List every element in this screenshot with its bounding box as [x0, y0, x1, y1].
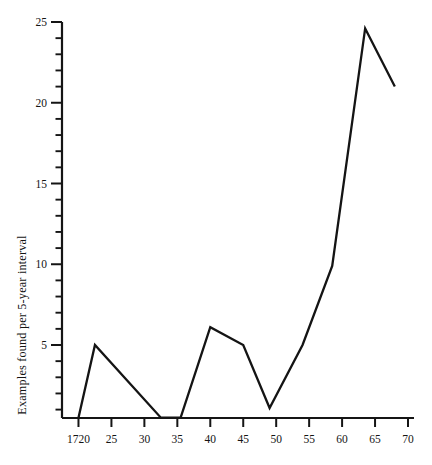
- y-tick-label: 20: [36, 97, 48, 109]
- x-tick-label: 35: [172, 433, 184, 445]
- y-axis-title: Examples found per 5-year interval: [15, 235, 29, 415]
- x-tick-label: 65: [369, 433, 381, 445]
- x-tick-label: 50: [270, 433, 282, 445]
- x-tick-label: 1720: [67, 433, 90, 445]
- chart-background: [0, 0, 432, 465]
- x-tick-label: 55: [303, 433, 315, 445]
- x-tick-label: 70: [402, 433, 414, 445]
- y-tick-label: 15: [36, 178, 48, 190]
- x-tick-label: 45: [237, 433, 249, 445]
- x-tick-label: 40: [205, 433, 217, 445]
- line-chart: 510152025 172025303540455055606570 Examp…: [0, 0, 432, 465]
- y-axis-title-text: Examples found per 5-year interval: [15, 235, 29, 415]
- y-tick-label: 5: [41, 339, 47, 351]
- y-tick-label: 25: [36, 16, 48, 28]
- x-tick-label: 60: [336, 433, 348, 445]
- y-tick-label: 10: [36, 258, 48, 270]
- x-tick-label: 25: [106, 433, 118, 445]
- chart-container: 510152025 172025303540455055606570 Examp…: [0, 0, 432, 465]
- x-tick-label: 30: [139, 433, 151, 445]
